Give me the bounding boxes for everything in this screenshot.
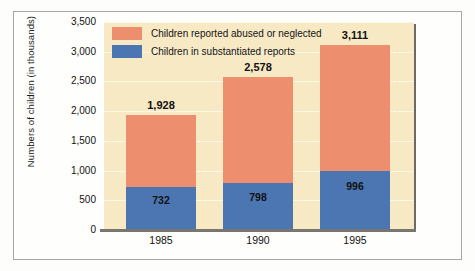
bar-segment-substantiated[interactable]: 996 <box>320 171 390 230</box>
bar-segment-reported[interactable] <box>223 77 293 183</box>
x-tick-label-1990: 1990 <box>223 234 293 246</box>
x-axis-line <box>100 229 416 232</box>
x-tick-label-1985: 1985 <box>126 234 196 246</box>
bar-sub-label: 798 <box>223 191 293 203</box>
legend-label: Children in substantiated reports <box>151 46 295 57</box>
bar-segment-reported[interactable] <box>126 115 196 186</box>
bar-segment-reported[interactable] <box>320 45 390 171</box>
x-axis-tick-labels: 1985 1990 1995 <box>104 234 414 252</box>
legend-item-reported[interactable]: Children reported abused or neglected <box>112 27 362 40</box>
y-tick-label: 2,500 <box>71 76 96 86</box>
y-tick-label: 500 <box>79 195 96 205</box>
y-axis-tick-labels: 3,500 3,000 2,500 2,000 1,500 1,000 500 … <box>38 22 100 230</box>
y-tick-label: 1,000 <box>71 166 96 176</box>
y-tick-label: 3,000 <box>71 47 96 57</box>
bar-total-label: 1,928 <box>126 99 196 111</box>
y-tick-label: 0 <box>90 225 96 235</box>
bar-group-1990[interactable]: 2,578 798 <box>223 77 293 230</box>
legend-swatch-icon <box>112 45 142 58</box>
bar-sub-label: 996 <box>320 180 390 192</box>
y-tick-label: 2,000 <box>71 106 96 116</box>
chart-legend: Children reported abused or neglected Ch… <box>112 27 362 63</box>
y-axis-title: Numbers of children (in thousands) <box>25 2 36 182</box>
y-tick-label: 1,500 <box>71 136 96 146</box>
y-tick-label: 3,500 <box>71 17 96 27</box>
bar-group-1995[interactable]: 3,111 996 <box>320 45 390 230</box>
legend-swatch-icon <box>112 27 142 40</box>
bar-sub-label: 732 <box>126 194 196 206</box>
bar-segment-substantiated[interactable]: 732 <box>126 187 196 231</box>
legend-label: Children reported abused or neglected <box>151 28 322 39</box>
bar-segment-substantiated[interactable]: 798 <box>223 183 293 230</box>
chart-figure: Numbers of children (in thousands) 3,500… <box>0 0 475 271</box>
bar-group-1985[interactable]: 1,928 732 <box>126 115 196 230</box>
legend-item-substantiated[interactable]: Children in substantiated reports <box>112 45 362 58</box>
x-tick-label-1995: 1995 <box>320 234 390 246</box>
